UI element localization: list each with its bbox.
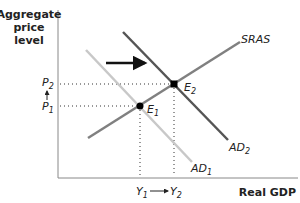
sras-label: SRAS	[241, 33, 270, 46]
ad2-label: AD2	[228, 141, 250, 156]
e1-label: E1	[147, 103, 159, 118]
p2-label: P2	[42, 76, 54, 91]
y1-label: Y1	[136, 185, 148, 200]
ad-as-diagram: Aggregate price level Real GDP E1 E2 SRA…	[0, 0, 300, 203]
y2-label: Y2	[170, 185, 182, 200]
y-axis-label-line1: Aggregate	[0, 8, 62, 21]
e2-point	[171, 81, 178, 88]
ad1-label: AD1	[190, 162, 212, 177]
e1-point	[137, 103, 144, 110]
y-axis-label-line3: level	[14, 34, 44, 47]
p1-label: P1	[42, 100, 54, 115]
sras-curve	[88, 42, 240, 138]
e2-label: E2	[184, 81, 196, 96]
x-axis-label: Real GDP	[239, 186, 296, 199]
y-axis-label-line2: price	[13, 21, 44, 34]
